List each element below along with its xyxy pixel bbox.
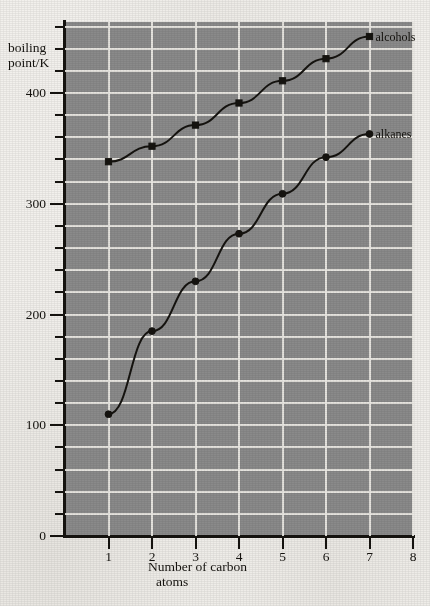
series-line (109, 37, 370, 162)
data-point (323, 56, 329, 62)
series-line (109, 134, 370, 414)
data-point (192, 122, 198, 128)
series-label-alcohols: alcohols (376, 31, 416, 43)
series-label-alkanes: alkanes (376, 128, 412, 140)
data-point (105, 159, 111, 165)
data-point (279, 190, 286, 197)
chart-figure: boiling point/K Number of carbon atoms 0… (0, 0, 430, 606)
data-point (105, 411, 112, 418)
data-point (366, 33, 372, 39)
data-point (236, 230, 243, 237)
data-point (279, 78, 285, 84)
data-point (149, 328, 156, 335)
data-point (192, 278, 199, 285)
data-point (236, 100, 242, 106)
series-layer (0, 0, 430, 606)
data-point (149, 143, 155, 149)
data-point (366, 131, 373, 138)
data-point (323, 154, 330, 161)
